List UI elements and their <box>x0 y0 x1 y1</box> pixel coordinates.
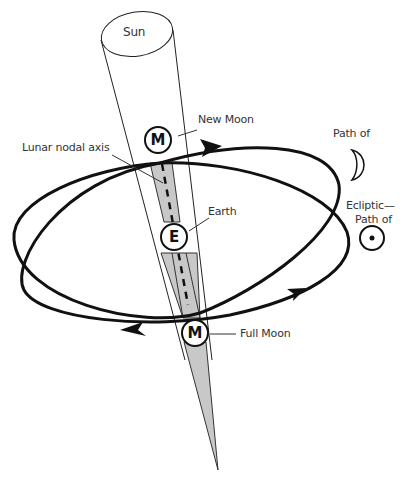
new-moon-label: New Moon <box>198 113 254 126</box>
orbit-arrow-right <box>287 288 306 301</box>
eclipse-diagram-canvas <box>0 0 411 482</box>
earth-marker: E <box>160 223 188 251</box>
orbit-arrow-left <box>120 322 146 336</box>
full-moon-label: Full Moon <box>240 327 290 340</box>
lunar-nodal-axis-label: Lunar nodal axis <box>22 141 109 154</box>
lower-shadow-band <box>161 253 200 318</box>
moon-path-label: Path of <box>333 127 370 140</box>
crescent-moon-icon <box>352 150 364 180</box>
earth-shadow-cone <box>184 342 218 470</box>
earth-label: Earth <box>208 205 237 218</box>
ecliptic-label: Ecliptic— <box>346 199 395 212</box>
sun-path-label: Path of <box>355 213 392 226</box>
upper-shadow-band <box>150 163 180 222</box>
orbit-arrow-upper <box>200 139 222 157</box>
sun-label: Sun <box>123 26 145 39</box>
new-moon-marker: M <box>144 126 172 154</box>
full-moon-marker: M <box>181 319 209 347</box>
